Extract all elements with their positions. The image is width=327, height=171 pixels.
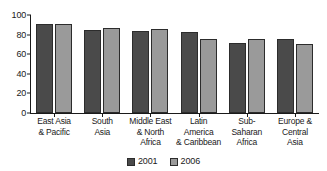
legend-swatch-icon (170, 158, 178, 166)
bar-2006 (200, 39, 217, 113)
bar-2006 (296, 44, 313, 113)
legend-item-2001[interactable]: 2001 (127, 157, 158, 166)
x-axis-category-label: Europe &CentralAsia (271, 116, 319, 156)
x-axis-category-label: East Asia& Pacific (30, 116, 78, 156)
bar-2006 (55, 24, 72, 113)
bar-group (223, 15, 271, 113)
bar-2001 (229, 43, 246, 113)
bar-group (175, 15, 223, 113)
bar-2006 (248, 39, 265, 113)
bar-groups (30, 15, 319, 113)
legend-item-2006[interactable]: 2006 (170, 157, 201, 166)
bar-2001 (36, 24, 53, 113)
clipped-title-sliver (14, 0, 314, 5)
bar-group (126, 15, 174, 113)
bar-2001 (181, 32, 198, 113)
legend-swatch-icon (127, 158, 135, 166)
legend-label: 2006 (181, 157, 201, 166)
x-axis-category-labels: East Asia& PacificSouthAsiaMiddle East& … (30, 116, 319, 156)
plot-area: 020406080100 (30, 15, 319, 113)
bar-2006 (151, 29, 168, 113)
bar-group (78, 15, 126, 113)
x-axis-category-label: SouthAsia (78, 116, 126, 156)
x-axis-line (30, 113, 319, 114)
legend-label: 2001 (138, 157, 158, 166)
bar-2006 (103, 28, 120, 113)
bar-chart: 020406080100 East Asia& PacificSouthAsia… (0, 0, 327, 171)
x-axis-category-label: LatinAmerica& Caribbean (175, 116, 223, 156)
bar-group (271, 15, 319, 113)
bar-2001 (277, 39, 294, 113)
bar-group (30, 15, 78, 113)
x-axis-category-label: Middle East& NorthAfrica (126, 116, 174, 156)
bar-2001 (84, 30, 101, 113)
chart-legend: 20012006 (0, 157, 327, 166)
x-axis-category-label: Sub-SaharanAfrica (223, 116, 271, 156)
bar-2001 (132, 31, 149, 113)
